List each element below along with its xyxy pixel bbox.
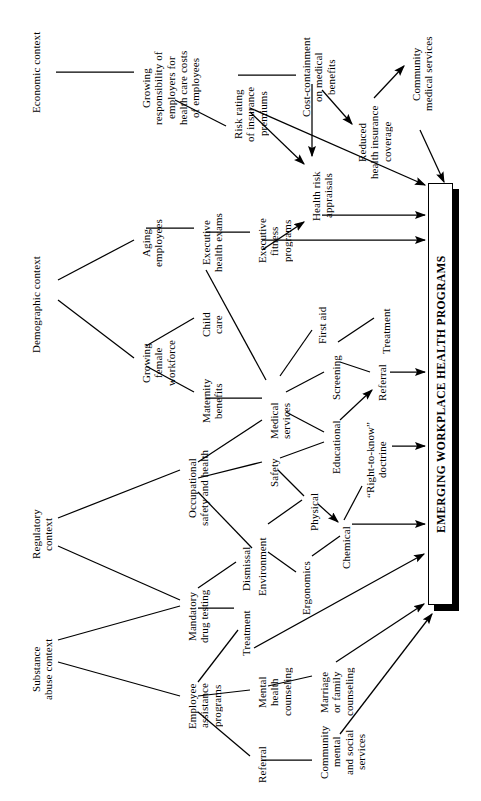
edge-substance-abuse-context-to-mandatory-drug-testing bbox=[58, 606, 180, 640]
node-physical: Physical bbox=[308, 486, 320, 538]
node-medical-services: Medical services bbox=[268, 392, 293, 450]
node-chemical: Chemical bbox=[340, 520, 352, 576]
node-first-aid: First aid bbox=[316, 298, 328, 352]
node-substance-abuse-context: Substance abuse context bbox=[30, 626, 55, 712]
node-growing-female-workforce: Growing female workforce bbox=[140, 330, 177, 396]
node-dismissal: Dismissal bbox=[240, 540, 252, 598]
edge-medical-services-to-screening bbox=[286, 372, 324, 392]
node-executive-health-exams: Executive health exams bbox=[200, 202, 225, 284]
node-growing-responsibility: Growing responsibility of employers for … bbox=[140, 36, 202, 140]
node-aging-employees: Aging employees bbox=[140, 210, 165, 276]
node-environment: Environment bbox=[256, 530, 268, 604]
node-treatment-med: Treatment bbox=[380, 300, 392, 362]
node-community-mental-social: Community mental and social services bbox=[318, 718, 367, 786]
node-safety: Safety bbox=[268, 452, 280, 494]
node-reduced-coverage: Reduced health insurance coverage bbox=[356, 94, 393, 190]
edge-ergonomics-to-chemical bbox=[312, 536, 340, 556]
node-community-medical-services: Community medical services bbox=[410, 22, 435, 126]
node-child-care: Child care bbox=[200, 306, 225, 344]
node-mental-health-counseling: Mental health counseling bbox=[256, 658, 293, 726]
edge-medical-services-to-first-aid bbox=[280, 330, 312, 376]
node-cost-containment: Cost-containment on medical benefits bbox=[300, 26, 337, 128]
edge-regulatory-context-to-occupational-safety bbox=[58, 470, 180, 518]
node-health-risk-appraisals: Health risk appraisals bbox=[310, 162, 335, 230]
edge-regulatory-context-to-mandatory-drug-testing bbox=[58, 546, 180, 600]
edge-environment-to-ergonomics bbox=[268, 552, 296, 572]
node-screening: Screening bbox=[330, 348, 342, 408]
edge-community-medical-services-to-title-box bbox=[420, 130, 444, 182]
edge-demographic-context-to-growing-female-workforce bbox=[58, 300, 134, 358]
edge-safety-to-physical bbox=[278, 470, 304, 496]
node-regulatory-context: Regulatory context bbox=[30, 500, 55, 568]
edge-marriage-family-counseling-to-title-box bbox=[336, 604, 424, 662]
node-risk-rating: Risk rating of insurance premiums bbox=[232, 78, 269, 150]
edge-screening-to-referral-med bbox=[340, 362, 370, 372]
node-maternity-benefits: Maternity benefits bbox=[200, 370, 225, 432]
node-educational: Educational bbox=[330, 414, 342, 480]
edge-right-to-know-to-chemical bbox=[344, 486, 362, 520]
node-referral-eap: Referral bbox=[256, 740, 268, 790]
node-executive-fitness: Executive fitness programs bbox=[256, 210, 293, 272]
edge-demographic-context-to-aging-employees bbox=[58, 240, 134, 280]
edge-physical-to-chemical bbox=[318, 504, 338, 522]
node-economic-context: Economic context bbox=[30, 18, 42, 126]
edge-environment-to-physical bbox=[268, 500, 302, 524]
node-right-to-know: “Right-to-know” doctrine bbox=[364, 414, 389, 506]
node-treatment-eap: Treatment bbox=[240, 602, 252, 664]
edge-risk-rating-to-title-box bbox=[250, 108, 425, 185]
node-occupational-safety: Occupational safety and health bbox=[186, 440, 211, 536]
edge-screening-to-treatment-med bbox=[338, 318, 374, 342]
node-ergonomics: Ergonomics bbox=[300, 554, 312, 622]
title-box-label: EMERGING WORKPLACE HEALTH PROGRAMS bbox=[428, 183, 453, 605]
edge-treatment-eap-to-title-box bbox=[254, 554, 424, 648]
edge-substance-abuse-context-to-employee-assistance bbox=[58, 662, 180, 696]
node-demographic-context: Demographic context bbox=[30, 242, 42, 368]
node-referral-med: Referral bbox=[376, 358, 388, 408]
node-employee-assistance: Employee assistance programs bbox=[186, 672, 223, 740]
node-mandatory-drug-testing: Mandatory drug testing bbox=[186, 578, 211, 654]
node-marriage-family-counseling: Marriage or family counseling bbox=[318, 658, 355, 726]
diagram-canvas: EMERGING WORKPLACE HEALTH PROGRAMS Econo… bbox=[0, 0, 481, 801]
